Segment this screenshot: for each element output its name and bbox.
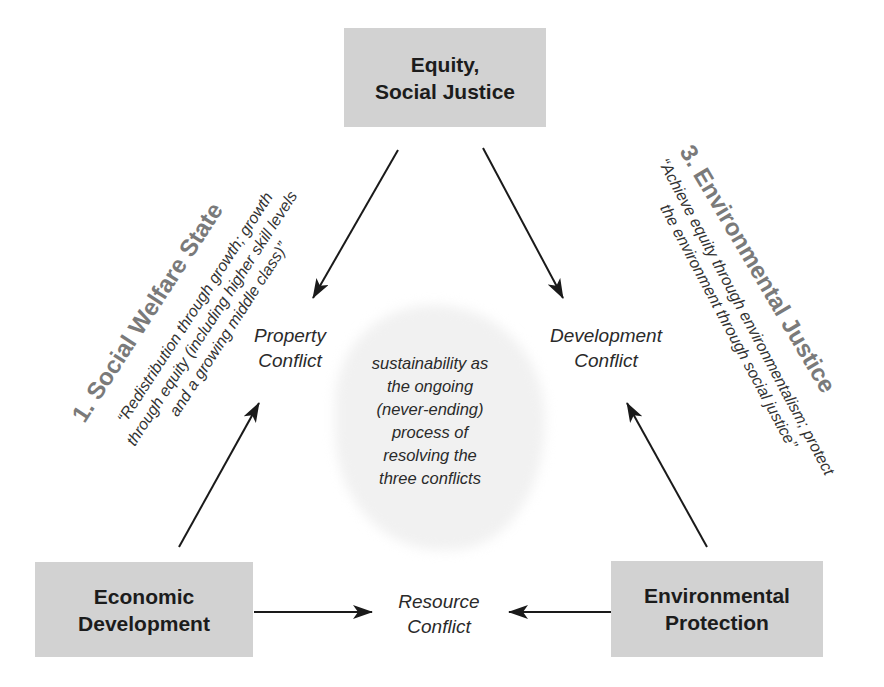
node-label-line1: Economic	[78, 583, 210, 610]
node-label-line2: Social Justice	[375, 78, 515, 105]
node-equity-social-justice: Equity, Social Justice	[344, 28, 546, 127]
conflict-line1: Resource	[380, 589, 498, 614]
center-sustainability-text: sustainability as the ongoing (never-end…	[340, 352, 520, 490]
arrow-environmental-to-development	[627, 403, 707, 547]
center-line: sustainability as	[340, 352, 520, 375]
center-line: (never-ending)	[340, 398, 520, 421]
conflict-line1: Development	[530, 323, 682, 348]
conflict-line2: Conflict	[380, 614, 498, 639]
center-line: three conflicts	[340, 467, 520, 490]
development-conflict-label: Development Conflict	[530, 323, 682, 373]
center-line: resolving the	[340, 444, 520, 467]
node-economic-development: Economic Development	[35, 562, 253, 657]
center-line: the ongoing	[340, 375, 520, 398]
node-label-line2: Development	[78, 610, 210, 637]
conflict-line2: Conflict	[235, 348, 345, 373]
center-line: process of	[340, 421, 520, 444]
arrow-equity-to-development	[483, 148, 563, 298]
node-label-line1: Equity,	[375, 51, 515, 78]
resource-conflict-label: Resource Conflict	[380, 589, 498, 639]
conflict-line2: Conflict	[530, 348, 682, 373]
conflict-line1: Property	[235, 323, 345, 348]
arrow-economic-to-property	[179, 403, 259, 547]
node-label-line1: Environmental	[644, 582, 790, 609]
node-label-line2: Protection	[644, 609, 790, 636]
property-conflict-label: Property Conflict	[235, 323, 345, 373]
node-environmental-protection: Environmental Protection	[611, 561, 823, 657]
